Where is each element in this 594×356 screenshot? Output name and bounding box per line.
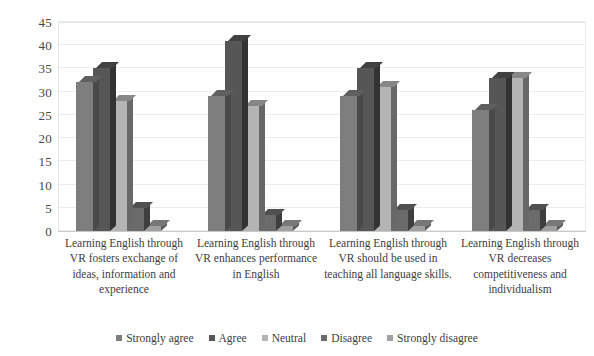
legend-item-label: Strongly agree xyxy=(126,332,193,344)
bar-group xyxy=(454,22,586,231)
x-axis-labels: Learning English through VR fosters exch… xyxy=(58,236,586,328)
x-axis-category-label: Learning English through VR fosters exch… xyxy=(58,236,190,298)
bar-side-face xyxy=(259,100,265,231)
legend-item[interactable]: Agree xyxy=(209,332,247,344)
bar-side-face xyxy=(93,77,99,231)
legend-item-label: Strongly disagree xyxy=(397,332,478,344)
bar-side-face xyxy=(127,96,133,231)
y-axis-tick-label: 20 xyxy=(20,132,52,145)
x-axis-category-label: Learning English through VR enhances per… xyxy=(190,236,322,282)
bar-side-face xyxy=(225,91,231,231)
bar-side-face xyxy=(110,63,116,231)
bar xyxy=(208,90,225,231)
y-axis-tick-label: 25 xyxy=(20,109,52,122)
bar xyxy=(76,76,93,231)
legend-swatch-icon xyxy=(262,335,268,341)
bar-group xyxy=(322,22,454,231)
bar-front-face xyxy=(76,82,93,231)
bar-front-face xyxy=(208,96,225,231)
x-axis-line xyxy=(58,231,586,232)
bar-groups xyxy=(58,22,586,231)
y-axis-tick-label: 40 xyxy=(20,39,52,52)
legend-item-label: Agree xyxy=(219,332,247,344)
legend-swatch-icon xyxy=(209,335,215,341)
legend-item[interactable]: Disagree xyxy=(321,332,372,344)
y-axis-tick-label: 30 xyxy=(20,86,52,99)
bar-side-face xyxy=(523,72,529,231)
y-axis-tick-label: 5 xyxy=(20,202,52,215)
bar-side-face xyxy=(374,63,380,231)
bar-side-face xyxy=(357,91,363,231)
bar-group xyxy=(190,22,322,231)
bar-front-face xyxy=(472,110,489,231)
bar-chart: 454035302520151050 Learning English thro… xyxy=(0,0,594,356)
y-axis-tick-label: 0 xyxy=(20,225,52,238)
legend-swatch-icon xyxy=(116,335,122,341)
y-axis-tick-label: 35 xyxy=(20,62,52,75)
x-axis-category-label: Learning English through VR should be us… xyxy=(322,236,454,282)
y-axis-tick-label: 15 xyxy=(20,155,52,168)
bar-side-face xyxy=(489,105,495,231)
y-axis-tick-label: 45 xyxy=(20,16,52,29)
y-axis-tick-label: 10 xyxy=(20,179,52,192)
legend-swatch-icon xyxy=(321,335,327,341)
legend-swatch-icon xyxy=(387,335,393,341)
legend-item[interactable]: Strongly agree xyxy=(116,332,193,344)
legend-item[interactable]: Neutral xyxy=(262,332,306,344)
legend-item-label: Disagree xyxy=(331,332,372,344)
bar-group xyxy=(58,22,190,231)
x-axis-category-label: Learning English through VR decreases co… xyxy=(454,236,586,298)
bar-side-face xyxy=(242,35,248,231)
bar-front-face xyxy=(340,96,357,231)
bar-side-face xyxy=(391,82,397,231)
bar xyxy=(472,104,489,231)
chart-legend: Strongly agreeAgreeNeutralDisagreeStrong… xyxy=(0,332,594,344)
legend-item-label: Neutral xyxy=(272,332,306,344)
bar xyxy=(340,90,357,231)
bar-side-face xyxy=(506,72,512,231)
legend-item[interactable]: Strongly disagree xyxy=(387,332,478,344)
